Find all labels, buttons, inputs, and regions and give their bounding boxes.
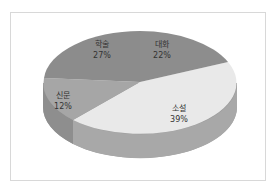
slice-학술: [44, 31, 140, 82]
label-소설-name: 소설: [172, 103, 186, 113]
pie-chart: 학술 27% 대화 22% 신문 12% 소설 39%: [0, 0, 275, 187]
label-대화-pct: 22%: [153, 51, 171, 60]
label-소설-pct: 39%: [170, 115, 188, 124]
label-신문-name: 신문: [56, 91, 70, 100]
label-신문-pct: 12%: [54, 102, 72, 111]
label-학술-name: 학술: [95, 39, 109, 49]
label-학술-pct: 27%: [93, 51, 111, 60]
label-대화-name: 대화: [155, 40, 170, 49]
